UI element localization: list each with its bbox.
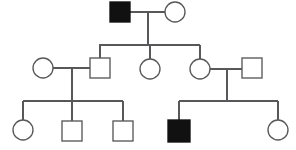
individual-ii-5-unaffected-male[interactable] (242, 58, 262, 78)
individual-iii-3-unaffected-male[interactable] (113, 121, 133, 141)
individual-iii-4-affected-male[interactable] (168, 120, 190, 142)
symbol-layer (13, 2, 288, 142)
pedigree-canvas (0, 0, 296, 150)
individual-i-1-affected-male[interactable] (110, 2, 130, 22)
individual-ii-3-unaffected-female[interactable] (140, 59, 160, 79)
pedigree-diagram (0, 0, 296, 150)
individual-ii-4-unaffected-female[interactable] (190, 59, 210, 79)
individual-ii-2-unaffected-male[interactable] (90, 58, 110, 78)
individual-i-2-unaffected-female[interactable] (165, 2, 185, 22)
individual-ii-1-unaffected-female[interactable] (33, 58, 53, 78)
individual-iii-1-unaffected-female[interactable] (13, 120, 33, 140)
individual-iii-5-unaffected-female[interactable] (268, 120, 288, 140)
individual-iii-2-unaffected-male[interactable] (62, 121, 82, 141)
